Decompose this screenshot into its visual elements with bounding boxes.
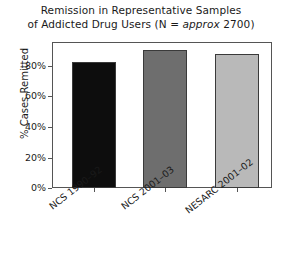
y-tick-label-0: 0% <box>31 183 46 193</box>
chart-title-line-1: Remission in Representative Samples <box>0 3 282 17</box>
y-tick-label-20: 20% <box>25 153 46 163</box>
chart-title-line-2-pre: of Addicted Drug Users (N = <box>27 18 182 30</box>
chart-title: Remission in Representative Samples of A… <box>0 3 282 31</box>
chart-title-line-2: of Addicted Drug Users (N = approx 2700) <box>0 17 282 31</box>
chart-title-line-2-post: 2700) <box>220 18 255 30</box>
y-tick-label-40: 40% <box>25 122 46 132</box>
x-tick-mark-1 <box>94 188 95 192</box>
x-tick-mark-2 <box>165 188 166 192</box>
chart-title-approx: approx <box>183 18 220 30</box>
x-tick-mark-3 <box>237 188 238 192</box>
y-tick-label-80: 80% <box>25 61 46 71</box>
chart-figure: Remission in Representative Samples of A… <box>0 0 282 266</box>
y-tick-label-60: 60% <box>25 91 46 101</box>
y-tick-mark-0 <box>48 188 52 189</box>
